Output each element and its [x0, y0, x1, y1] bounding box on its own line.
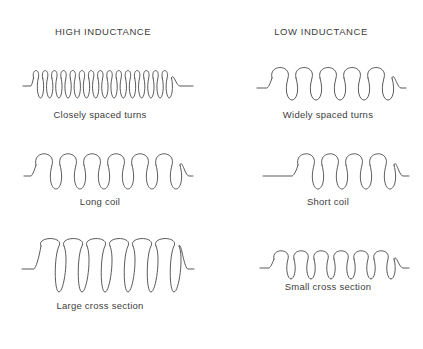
lead-wire-left — [24, 165, 36, 176]
coil-drawing-widely-spaced-turns — [255, 62, 407, 106]
coil-drawing-closely-spaced-turns — [22, 64, 194, 104]
coil-drawing-long-coil — [22, 148, 194, 194]
lead-wire-right — [172, 77, 194, 86]
coil-figure-short-coil — [262, 148, 410, 194]
coil-figure-small-cross-section — [258, 246, 410, 284]
coil-drawing-small-cross-section — [258, 246, 410, 284]
coil-drawing-short-coil — [262, 148, 410, 194]
lead-wire-right — [394, 163, 409, 176]
caption-long-coil: Long coil — [10, 196, 190, 207]
coil-turns — [40, 239, 181, 293]
lead-wire-right — [392, 76, 406, 88]
lead-wire-left — [263, 165, 298, 176]
coil-turns — [33, 71, 172, 99]
lead-wire-right — [394, 258, 409, 268]
caption-large-cross-section: Large cross section — [5, 300, 195, 311]
lead-wire-left — [257, 78, 272, 88]
coil-turns — [274, 251, 396, 279]
coil-turns — [298, 154, 396, 189]
lead-wire-left — [22, 246, 41, 269]
lead-wire-left — [23, 78, 34, 86]
coil-figure-closely-spaced-turns — [22, 64, 194, 104]
inductance-diagram: HIGH INDUCTANCE LOW INDUCTANCE — [0, 0, 423, 349]
caption-small-cross-section: Small cross section — [238, 281, 418, 292]
coil-figure-widely-spaced-turns — [255, 62, 407, 106]
lead-wire-left — [260, 259, 274, 268]
coil-figure-large-cross-section — [20, 234, 195, 296]
coil-turns — [272, 68, 394, 101]
caption-closely-spaced-turns: Closely spaced turns — [10, 109, 190, 120]
caption-widely-spaced-turns: Widely spaced turns — [238, 109, 418, 120]
column-header-low-inductance: LOW INDUCTANCE — [236, 26, 406, 37]
column-header-high-inductance: HIGH INDUCTANCE — [18, 26, 188, 37]
coil-figure-long-coil — [22, 148, 194, 194]
coil-turns — [36, 154, 182, 189]
caption-short-coil: Short coil — [238, 196, 418, 207]
coil-drawing-large-cross-section — [20, 234, 195, 296]
